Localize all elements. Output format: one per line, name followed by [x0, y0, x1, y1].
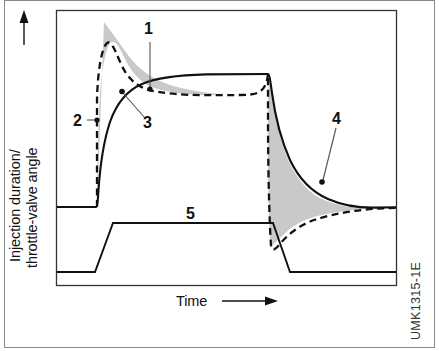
plot-frame: [57, 11, 397, 286]
y-axis-label-line1: Injection duration/: [7, 148, 23, 262]
callout-2-label: 2: [73, 112, 82, 129]
x-axis-label: Time: [176, 293, 207, 309]
right-arrow-icon: [265, 297, 278, 306]
figure-code: UMK1315-1E: [409, 262, 423, 340]
up-arrow-icon: [20, 10, 29, 23]
figure-page: Injection duration/ throttle-valve angle: [0, 0, 439, 351]
callout-4-label: 4: [332, 110, 341, 127]
callout-5-label: 5: [186, 205, 195, 222]
callout-1-label: 1: [144, 20, 153, 37]
x-axis-group: Time: [176, 293, 278, 309]
callout-2-dot: [94, 117, 99, 122]
y-axis-group: Injection duration/ throttle-valve angle: [7, 10, 40, 268]
y-axis-label-line2: throttle-valve angle: [24, 147, 40, 268]
callout-5-group: 5: [186, 205, 195, 222]
diagram-canvas: Injection duration/ throttle-valve angle: [0, 0, 439, 351]
callout-1-dot: [147, 86, 152, 91]
callout-3-label: 3: [143, 114, 152, 131]
callout-3-dot: [119, 89, 125, 95]
callout-4-dot: [319, 179, 325, 185]
